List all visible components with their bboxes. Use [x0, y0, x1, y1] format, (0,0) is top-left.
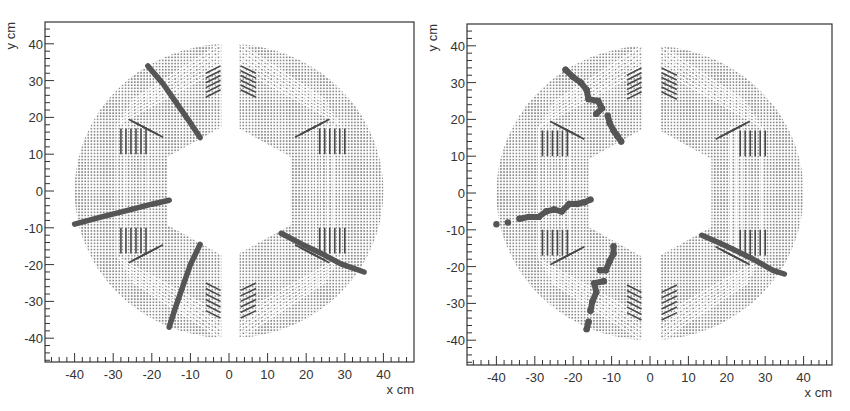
- x-tick-label: -30: [104, 367, 123, 382]
- x-tick-label: -10: [181, 367, 200, 382]
- left-plot-panel: -40-30-20-10010203040-40-30-20-100102030…: [0, 0, 425, 411]
- detector-half-right: [239, 44, 383, 338]
- x-tick-label: 20: [299, 367, 313, 382]
- x-axis-title: x cm: [387, 382, 414, 397]
- x-tick-label: 0: [225, 367, 232, 382]
- x-tick-label: -20: [142, 367, 161, 382]
- x-tick-label: -40: [65, 367, 84, 382]
- y-tick-label: 20: [451, 112, 465, 127]
- x-tick-label: 20: [720, 370, 734, 385]
- x-tick-label: 10: [260, 367, 274, 382]
- x-tick-label: -40: [487, 370, 506, 385]
- y-tick-label: -10: [24, 221, 43, 236]
- y-tick-label: 10: [29, 147, 43, 162]
- y-tick-label: -20: [24, 258, 43, 273]
- right-plot-panel: -40-30-20-10010203040-40-30-20-100102030…: [425, 0, 850, 411]
- y-tick-label: -40: [446, 333, 465, 348]
- y-tick-label: 40: [29, 37, 43, 52]
- right-plot: -40-30-20-10010203040-40-30-20-100102030…: [425, 0, 850, 411]
- x-tick-label: 40: [796, 370, 810, 385]
- y-tick-label: -30: [24, 294, 43, 309]
- x-tick-label: 30: [338, 367, 352, 382]
- x-tick-label: 40: [376, 367, 390, 382]
- y-tick-label: -10: [446, 223, 465, 238]
- y-tick-label: -20: [446, 260, 465, 275]
- detector-cross-section: [75, 44, 384, 338]
- y-tick-label: 30: [29, 74, 43, 89]
- x-axis-title: x cm: [805, 385, 832, 400]
- y-axis-title: y cm: [3, 22, 18, 49]
- x-tick-label: -20: [564, 370, 583, 385]
- y-tick-label: 0: [36, 184, 43, 199]
- x-tick-label: 0: [646, 370, 653, 385]
- x-tick-label: -10: [602, 370, 621, 385]
- y-tick-label: 20: [29, 110, 43, 125]
- y-tick-label: -40: [24, 331, 43, 346]
- y-tick-label: 0: [458, 186, 465, 201]
- y-tick-label: 30: [451, 76, 465, 91]
- y-tick-label: 40: [451, 39, 465, 54]
- detector-cross-section: [496, 46, 803, 340]
- x-tick-label: 30: [758, 370, 772, 385]
- detector-half-right: [660, 46, 803, 340]
- x-tick-label: -30: [525, 370, 544, 385]
- x-tick-label: 10: [681, 370, 695, 385]
- y-tick-label: 10: [451, 149, 465, 164]
- y-tick-label: -30: [446, 296, 465, 311]
- left-plot: -40-30-20-10010203040-40-30-20-100102030…: [0, 0, 425, 411]
- y-axis-title: y cm: [425, 24, 440, 51]
